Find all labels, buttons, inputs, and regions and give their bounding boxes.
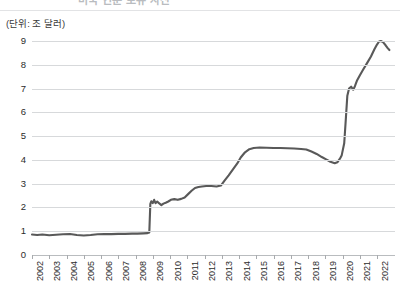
x-tick-label: 2019 xyxy=(329,261,338,281)
gridline xyxy=(32,231,395,232)
x-tick-label: 2007 xyxy=(122,261,131,281)
gridline xyxy=(32,207,395,208)
y-tick-label: 4 xyxy=(12,155,26,165)
x-tick xyxy=(274,255,275,259)
y-tick-label: 5 xyxy=(12,131,26,141)
x-tick xyxy=(343,255,344,259)
x-tick-label: 2004 xyxy=(70,261,79,281)
gridline xyxy=(32,41,395,42)
x-tick xyxy=(101,255,102,259)
series-line xyxy=(32,41,389,236)
gridline xyxy=(32,160,395,161)
x-tick xyxy=(49,255,50,259)
x-tick xyxy=(67,255,68,259)
title-divider xyxy=(0,10,400,11)
y-axis: 0123456789 xyxy=(0,41,26,255)
x-tick xyxy=(325,255,326,259)
x-tick-label: 2006 xyxy=(105,261,114,281)
x-axis: 2002200320042005200620072008200920102011… xyxy=(32,255,395,301)
x-tick-label: 2003 xyxy=(53,261,62,281)
y-tick-label: 7 xyxy=(12,84,26,94)
page-title: 미국 연준 보유 자산 xyxy=(78,0,170,7)
x-tick xyxy=(256,255,257,259)
x-tick-label: 2015 xyxy=(260,261,269,281)
x-tick xyxy=(291,255,292,259)
x-tick-label: 2010 xyxy=(174,261,183,281)
x-tick xyxy=(187,255,188,259)
x-tick xyxy=(222,255,223,259)
x-tick-label: 2002 xyxy=(36,261,45,281)
gridline xyxy=(32,112,395,113)
gridline xyxy=(32,65,395,66)
x-tick xyxy=(84,255,85,259)
x-tick xyxy=(153,255,154,259)
x-tick-label: 2017 xyxy=(294,261,303,281)
x-tick xyxy=(136,255,137,259)
x-tick-label: 2013 xyxy=(225,261,234,281)
x-tick-label: 2020 xyxy=(346,261,355,281)
gridline xyxy=(32,136,395,137)
x-tick xyxy=(360,255,361,259)
y-tick-label: 6 xyxy=(12,108,26,118)
chart-page: 미국 연준 보유 자산 (단위: 조 달러) 0123456789 200220… xyxy=(0,0,400,301)
x-tick-label: 2021 xyxy=(363,261,372,281)
y-tick-label: 0 xyxy=(12,250,26,260)
x-tick-label: 2008 xyxy=(139,261,148,281)
y-tick-label: 8 xyxy=(12,60,26,70)
y-tick-label: 2 xyxy=(12,203,26,213)
x-tick xyxy=(32,255,33,259)
x-tick xyxy=(377,255,378,259)
x-tick-label: 2022 xyxy=(381,261,390,281)
line-series-svg xyxy=(32,41,395,255)
x-tick xyxy=(239,255,240,259)
x-tick xyxy=(170,255,171,259)
x-tick xyxy=(308,255,309,259)
x-tick-label: 2018 xyxy=(312,261,321,281)
y-tick-label: 9 xyxy=(12,36,26,46)
x-tick-label: 2014 xyxy=(243,261,252,281)
x-tick xyxy=(205,255,206,259)
y-tick-label: 3 xyxy=(12,179,26,189)
x-tick xyxy=(118,255,119,259)
gridline xyxy=(32,184,395,185)
x-tick-label: 2016 xyxy=(277,261,286,281)
unit-caption: (단위: 조 달러) xyxy=(6,16,65,30)
y-tick-label: 1 xyxy=(12,226,26,236)
x-tick-label: 2012 xyxy=(208,261,217,281)
x-tick-label: 2011 xyxy=(191,261,200,280)
x-tick-label: 2009 xyxy=(156,261,165,281)
x-tick-label: 2005 xyxy=(87,261,96,281)
gridline xyxy=(32,89,395,90)
plot-area xyxy=(32,41,395,255)
